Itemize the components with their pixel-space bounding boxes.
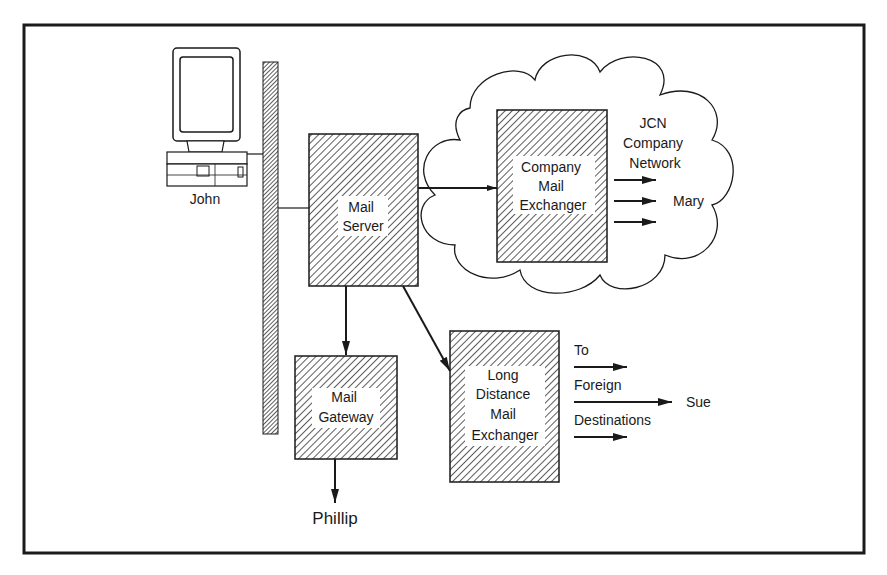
figure-frame bbox=[24, 25, 864, 553]
cme-line: Company bbox=[521, 159, 581, 175]
ldme-line: Mail bbox=[490, 406, 516, 422]
cloud-line: Network bbox=[629, 155, 681, 171]
gateway-line: Gateway bbox=[318, 409, 373, 425]
mail-server-line: Server bbox=[342, 218, 384, 234]
foreign-line: Foreign bbox=[574, 377, 621, 393]
cloud-line: Company bbox=[623, 135, 683, 151]
ldme-line: Distance bbox=[476, 386, 531, 402]
mail-network-diagram: John Mail Server Company Mail Exchanger … bbox=[0, 0, 887, 575]
cloud-line: JCN bbox=[639, 115, 666, 131]
network-bus bbox=[263, 62, 278, 434]
phillip-label: Phillip bbox=[312, 509, 357, 528]
server-to-longdistance-arrow bbox=[403, 286, 450, 371]
ldme-line: Long bbox=[487, 367, 518, 383]
cme-line: Exchanger bbox=[520, 197, 587, 213]
computer-icon bbox=[167, 48, 247, 186]
mail-server-line: Mail bbox=[348, 199, 374, 215]
cme-line: Mail bbox=[538, 178, 564, 194]
ldme-line: Exchanger bbox=[472, 427, 539, 443]
sue-label: Sue bbox=[686, 394, 711, 410]
foreign-line: Destinations bbox=[574, 412, 651, 428]
gateway-line: Mail bbox=[331, 389, 357, 405]
mary-label: Mary bbox=[673, 193, 704, 209]
foreign-line: To bbox=[574, 342, 589, 358]
foreign-destinations-label: To Foreign Destinations bbox=[574, 342, 651, 428]
john-label: John bbox=[190, 191, 220, 207]
